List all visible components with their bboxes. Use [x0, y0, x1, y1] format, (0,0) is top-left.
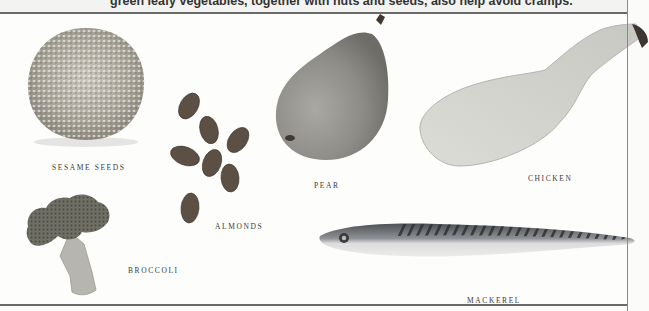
label-almonds: Almonds [215, 222, 263, 231]
mackerel-image [318, 214, 638, 269]
chicken-image [410, 18, 649, 168]
pear-image [268, 6, 393, 166]
label-chicken: Chicken [528, 174, 573, 183]
food-illustration-panel: Sesame Seeds Almonds [0, 14, 627, 304]
broccoli-image [22, 192, 117, 297]
label-pear: Pear [314, 181, 340, 190]
label-broccoli: Broccoli [128, 266, 179, 275]
label-sesame-seeds: Sesame Seeds [52, 163, 126, 172]
page-frame-bottom [0, 304, 627, 306]
page-frame-right [627, 0, 628, 311]
almonds-image [168, 90, 253, 230]
sesame-seeds-image [22, 24, 152, 149]
